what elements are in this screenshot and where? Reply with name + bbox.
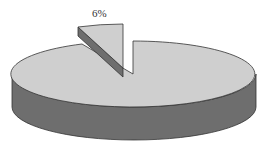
main-slice-top <box>11 41 255 107</box>
pie-chart: 6% <box>0 0 267 149</box>
slice-label-6-percent: 6% <box>92 8 107 19</box>
pie-chart-graphic <box>0 0 267 149</box>
